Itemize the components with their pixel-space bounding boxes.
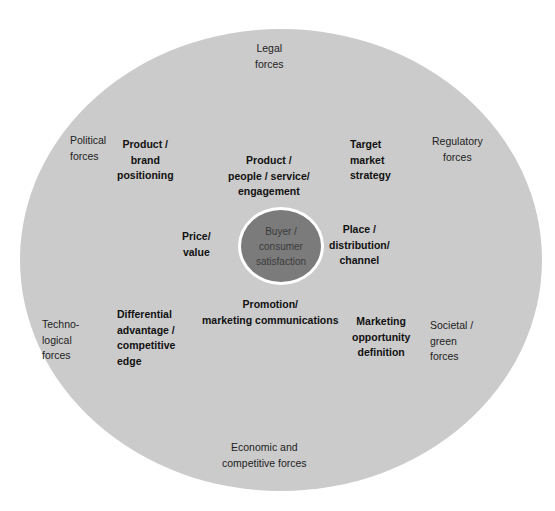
technological-forces-label: Techno- logical forces bbox=[42, 317, 79, 364]
differential-advantage-label: Differential advantage / competitive edg… bbox=[117, 307, 175, 369]
societal-green-forces-label: Societal / green forces bbox=[430, 318, 473, 365]
product-brand-positioning-label: Product / brand positioning bbox=[117, 137, 174, 184]
promotion-communications-label: Promotion/ marketing communications bbox=[202, 297, 339, 328]
marketing-opportunity-label: Marketing opportunity definition bbox=[352, 314, 410, 361]
core-label: Buyer / consumer satisfaction bbox=[256, 224, 306, 269]
place-distribution-label: Place / distribution/ channel bbox=[329, 222, 390, 269]
target-market-strategy-label: Target market strategy bbox=[350, 137, 391, 184]
buyer-satisfaction-core: Buyer / consumer satisfaction bbox=[238, 207, 324, 285]
legal-forces-label: Legal forces bbox=[255, 41, 284, 72]
economic-competitive-forces-label: Economic and competitive forces bbox=[222, 440, 307, 471]
political-forces-label: Political forces bbox=[70, 133, 106, 164]
regulatory-forces-label: Regulatory forces bbox=[432, 134, 483, 165]
product-people-service-label: Product / people / service/ engagement bbox=[228, 153, 310, 200]
price-value-label: Price/ value bbox=[182, 229, 211, 260]
